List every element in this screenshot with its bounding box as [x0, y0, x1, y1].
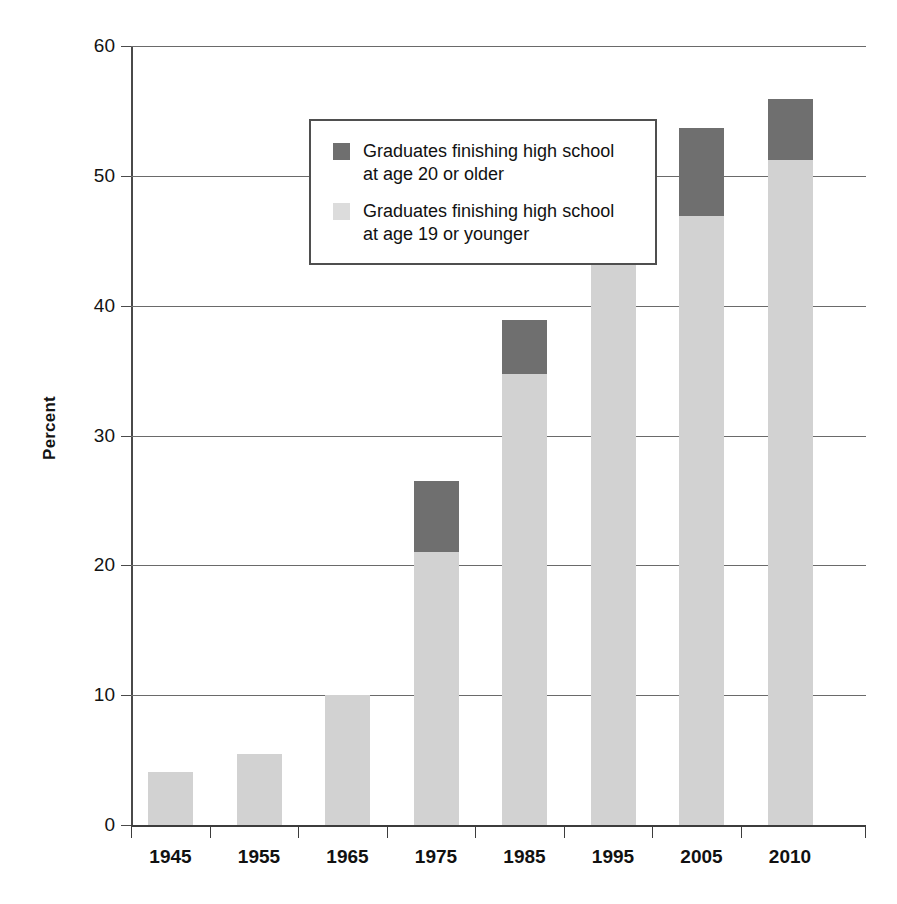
gridline-40: [131, 306, 866, 307]
x-tick-mark-1955: [298, 827, 299, 838]
bar-1955: [237, 754, 282, 825]
dark-gray-swatch-icon: [333, 143, 350, 160]
chart-legend: Graduates finishing high school at age 2…: [309, 119, 657, 265]
bar-1965: [325, 695, 370, 825]
plot-area: 0102030405060 19451955196519751985199520…: [131, 46, 866, 827]
y-tick-label-20: 20: [94, 554, 115, 576]
bar-1985: [502, 320, 547, 825]
bar-segment-younger-1945: [148, 772, 193, 825]
x-tick-mark-1975: [475, 827, 476, 838]
y-tick-mark-40: [121, 306, 131, 307]
gridline-30: [131, 436, 866, 437]
x-tick-label-2005: 2005: [680, 846, 722, 868]
y-axis-title: Percent: [40, 368, 60, 488]
bar-segment-younger-2010: [768, 160, 813, 825]
light-gray-swatch-icon: [333, 203, 350, 220]
y-tick-label-50: 50: [94, 165, 115, 187]
y-tick-mark-10: [121, 695, 131, 696]
bar-segment-younger-1985: [502, 374, 547, 825]
bar-1945: [148, 772, 193, 825]
y-tick-mark-0: [121, 825, 131, 826]
y-tick-label-30: 30: [94, 425, 115, 447]
bar-2010: [768, 99, 813, 825]
bar-segment-older-2010: [768, 99, 813, 160]
legend-entry-younger: Graduates finishing high school at age 1…: [333, 200, 614, 246]
x-tick-label-1945: 1945: [149, 846, 191, 868]
x-tick-label-1955: 1955: [238, 846, 280, 868]
y-tick-label-10: 10: [94, 684, 115, 706]
y-tick-label-0: 0: [104, 814, 115, 836]
y-tick-label-40: 40: [94, 295, 115, 317]
bar-segment-younger-1975: [414, 552, 459, 825]
x-tick-mark-1965: [387, 827, 388, 838]
bar-2005: [679, 128, 724, 825]
x-tick-label-1975: 1975: [415, 846, 457, 868]
x-tick-label-2010: 2010: [769, 846, 811, 868]
y-tick-mark-60: [121, 46, 131, 47]
y-tick-mark-20: [121, 565, 131, 566]
bar-segment-younger-1995: [591, 234, 636, 825]
y-axis-line: [131, 46, 133, 827]
y-tick-mark-30: [121, 436, 131, 437]
gridline-60: [131, 46, 866, 47]
x-tick-label-1985: 1985: [503, 846, 545, 868]
x-tick-mark-1995: [652, 827, 653, 838]
x-tick-mark-2005: [741, 827, 742, 838]
y-tick-mark-50: [121, 176, 131, 177]
gridline-10: [131, 695, 866, 696]
bar-segment-older-2005: [679, 128, 724, 216]
x-axis-line: [131, 825, 866, 827]
chart-figure: Percent 0102030405060 194519551965197519…: [0, 0, 897, 904]
x-tick-mark-origin: [131, 827, 132, 838]
bar-segment-older-1985: [502, 320, 547, 375]
legend-label-older: Graduates finishing high school at age 2…: [363, 140, 614, 186]
x-tick-mark-1945: [210, 827, 211, 838]
x-tick-mark-end: [865, 827, 866, 838]
bar-1975: [414, 481, 459, 825]
x-tick-label-1995: 1995: [592, 846, 634, 868]
legend-label-younger: Graduates finishing high school at age 1…: [363, 200, 614, 246]
x-tick-mark-1985: [564, 827, 565, 838]
gridline-20: [131, 565, 866, 566]
bar-segment-older-1975: [414, 481, 459, 552]
x-tick-label-1965: 1965: [326, 846, 368, 868]
y-tick-label-60: 60: [94, 35, 115, 57]
bar-segment-younger-2005: [679, 216, 724, 825]
legend-entry-older: Graduates finishing high school at age 2…: [333, 140, 614, 186]
bar-segment-younger-1955: [237, 754, 282, 825]
bar-segment-younger-1965: [325, 695, 370, 825]
